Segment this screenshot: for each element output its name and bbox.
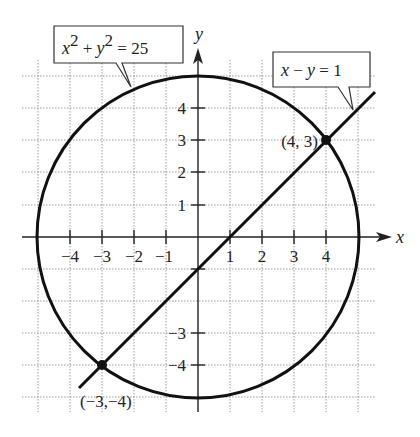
x-axis [22,232,392,242]
y-tick-label: 4 [178,99,187,118]
x-tick-label: −4 [61,247,80,266]
point-label: (−3,−4) [80,392,132,411]
y-axis [193,48,203,412]
x-tick-label: 1 [226,247,235,266]
x-tick-labels: −4 −3 −2 −1 1 2 3 4 [61,247,331,266]
circle-equation-callout: x2 + y2 = 25 [54,26,183,87]
point-label: (4, 3) [281,132,318,151]
x-tick-label: 3 [290,247,299,266]
x-tick-label: −1 [155,247,173,266]
x-axis-label: x [395,227,404,247]
x-tick-label: 4 [322,247,331,266]
x-tick-label: −3 [93,247,111,266]
line-curve [79,92,375,388]
y-tick-label: 3 [178,131,187,150]
y-tick-label: −4 [168,356,187,375]
y-tick-label: 1 [178,196,187,215]
y-axis-label: y [193,24,203,44]
intersection-point [97,360,107,370]
chart-canvas: −4 −3 −2 −1 1 2 3 4 4 3 2 1 −3 −4 x y (4… [0,0,420,437]
y-tick-label: −3 [168,324,186,343]
line-equation: x − y = 1 [280,60,342,80]
x-tick-label: 2 [258,247,267,266]
x-tick-label: −2 [125,247,143,266]
intersection-point [321,135,331,145]
y-tick-label: 2 [178,163,187,182]
line-equation-callout: x − y = 1 [273,52,370,110]
